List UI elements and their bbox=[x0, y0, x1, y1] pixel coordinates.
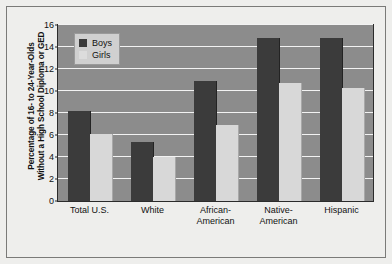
x-tick-label: Hispanic bbox=[324, 205, 359, 216]
x-label-line: American bbox=[196, 216, 234, 227]
bar-group bbox=[247, 25, 310, 201]
legend-item-girls: Girls bbox=[79, 49, 112, 61]
x-label-line: Hispanic bbox=[324, 205, 359, 216]
bar-boys bbox=[320, 38, 343, 201]
bar-girls bbox=[216, 125, 239, 201]
y-axis-ticks: 0246810121416 bbox=[30, 24, 54, 202]
legend-swatch-girls-icon bbox=[79, 51, 87, 59]
plot-area: Boys Girls bbox=[57, 24, 374, 202]
x-axis-labels: Total U.S.WhiteAfrican-AmericanNative-Am… bbox=[57, 205, 374, 245]
legend-swatch-boys-icon bbox=[79, 39, 87, 47]
y-tick-label: 12 bbox=[30, 64, 54, 74]
legend-item-boys: Boys bbox=[79, 37, 112, 49]
y-tick-label: 8 bbox=[30, 108, 54, 118]
x-label-line: American bbox=[259, 216, 297, 227]
bar-boys bbox=[194, 81, 217, 201]
legend-label-boys: Boys bbox=[92, 37, 112, 49]
bar-group bbox=[310, 25, 373, 201]
x-tick-label: Total U.S. bbox=[70, 205, 109, 216]
legend-label-girls: Girls bbox=[92, 49, 111, 61]
bar-boys bbox=[257, 38, 280, 201]
y-tick-label: 14 bbox=[30, 42, 54, 52]
y-tick-label: 2 bbox=[30, 174, 54, 184]
bar-boys bbox=[131, 142, 154, 201]
bar-girls bbox=[279, 83, 302, 201]
x-label-line: Total U.S. bbox=[70, 205, 109, 216]
bar-girls bbox=[90, 134, 113, 201]
bar-group bbox=[121, 25, 184, 201]
y-tick-label: 16 bbox=[30, 20, 54, 30]
chart-figure: Percentage of 16- to 24-Year-Olds Withou… bbox=[0, 0, 392, 264]
y-tick-label: 4 bbox=[30, 152, 54, 162]
bar-girls bbox=[153, 157, 176, 201]
y-tick-label: 6 bbox=[30, 130, 54, 140]
bar-girls bbox=[342, 88, 365, 201]
x-label-line: African- bbox=[196, 205, 234, 216]
y-tick-label: 10 bbox=[30, 86, 54, 96]
bar-boys bbox=[68, 111, 91, 201]
x-label-line: Native- bbox=[259, 205, 297, 216]
legend: Boys Girls bbox=[74, 33, 120, 65]
x-tick-label: White bbox=[141, 205, 164, 216]
y-tick-label: 0 bbox=[30, 196, 54, 206]
x-tick-label: Native-American bbox=[259, 205, 297, 227]
bar-group bbox=[184, 25, 247, 201]
x-label-line: White bbox=[141, 205, 164, 216]
x-tick-label: African-American bbox=[196, 205, 234, 227]
